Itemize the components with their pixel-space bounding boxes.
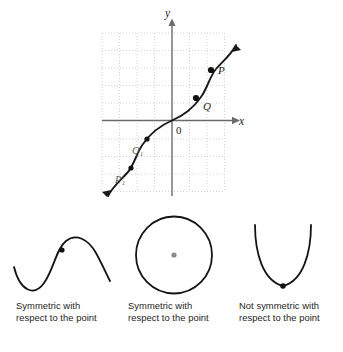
figures-panel: Symmetric with respect to the point Symm… — [0, 215, 343, 352]
y-axis-label: y — [164, 7, 171, 20]
caption-circle-line1: Symmetric with — [128, 300, 233, 312]
caption-parabola-line1: Not symmetric with — [239, 300, 343, 312]
sine-path — [14, 237, 110, 290]
point-label-Q: Q — [203, 100, 211, 112]
caption-parabola-line2: respect to the point — [239, 312, 343, 324]
caption-parabola: Not symmetric with respect to the point — [239, 300, 343, 323]
sine-center-point — [59, 247, 64, 252]
origin-label: 0 — [176, 124, 182, 136]
figure-parabola — [227, 219, 343, 299]
figure-sine-curve — [4, 219, 124, 299]
caption-sine-line1: Symmetric with — [16, 300, 124, 312]
caption-circle-line2: respect to the point — [128, 312, 233, 324]
y-axis — [168, 19, 175, 197]
point-label-P1: P₁ — [114, 174, 125, 185]
point-P1 — [128, 165, 133, 170]
x-axis-label: x — [238, 115, 245, 127]
point-label-P: P — [217, 64, 225, 76]
point-Q1 — [144, 136, 149, 141]
coordinate-graph-panel: y x 0 P Q Q₁ P₁ — [0, 0, 343, 215]
point-Q — [193, 95, 199, 101]
point-label-Q1: Q₁ — [132, 145, 143, 156]
caption-circle: Symmetric with respect to the point — [128, 300, 233, 323]
grid-lines — [102, 33, 225, 192]
point-P — [208, 67, 214, 73]
circle-center-point — [171, 252, 176, 257]
figure-circle — [115, 215, 235, 295]
coordinate-graph-svg: y x 0 P Q Q₁ P₁ — [0, 0, 343, 215]
caption-sine: Symmetric with respect to the point — [16, 300, 124, 323]
caption-sine-line2: respect to the point — [16, 312, 124, 324]
parabola-vertex-point — [280, 283, 286, 289]
parabola-path — [255, 225, 311, 286]
